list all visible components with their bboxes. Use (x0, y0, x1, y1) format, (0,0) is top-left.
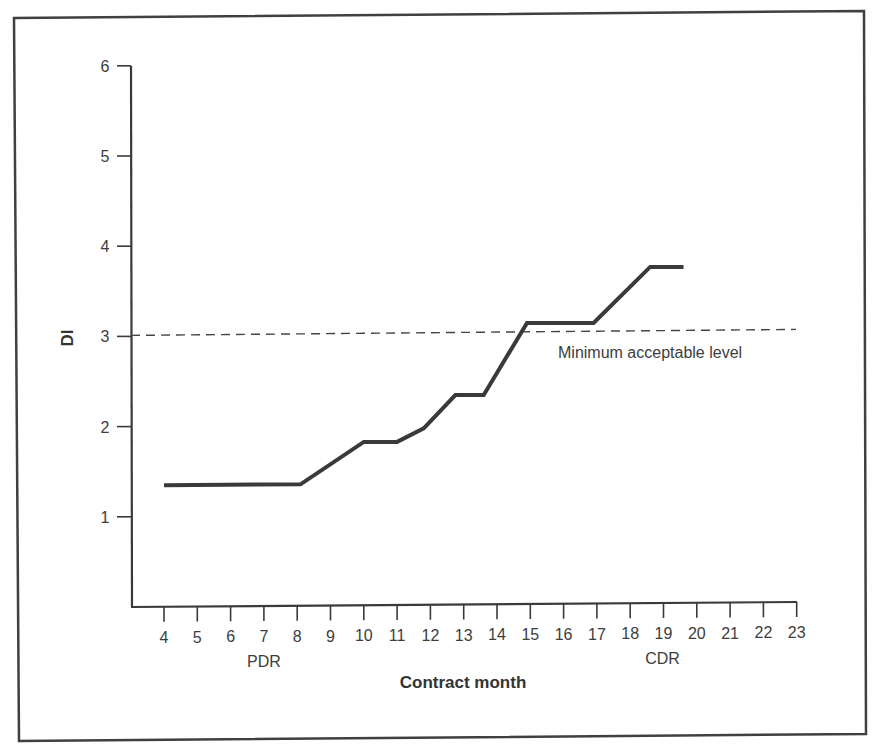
x-tick-label: 8 (293, 628, 302, 645)
x-axis-title: Contract month (400, 673, 527, 692)
x-tick-label: 19 (655, 625, 673, 642)
x-tick-label: 15 (521, 626, 539, 643)
x-tick-label: 9 (326, 628, 335, 645)
x-axis-ticks: 4567891011121314151617181920212223 (160, 602, 806, 646)
y-tick-label: 6 (101, 58, 110, 75)
y-tick-label: 2 (101, 419, 110, 436)
x-tick-label: 14 (488, 626, 506, 643)
x-tick-label: 11 (389, 627, 406, 644)
y-axis-ticks: 123456 (101, 58, 131, 526)
di-series-line (164, 267, 684, 485)
minimum-acceptable-level-line (131, 329, 796, 335)
x-tick-label: 17 (588, 626, 606, 643)
x-tick-label: 4 (160, 629, 169, 646)
x-tick-label: 20 (688, 625, 706, 642)
y-axis-title: DI (58, 330, 77, 347)
x-tick-label: 7 (259, 628, 268, 645)
y-tick-label: 5 (101, 148, 110, 165)
x-tick-label: 22 (755, 624, 773, 641)
x-tick-label: 6 (226, 628, 235, 645)
cdr-milestone-label: CDR (645, 650, 680, 667)
y-tick-label: 4 (101, 238, 110, 255)
x-tick-label: 10 (355, 627, 373, 644)
y-axis (131, 66, 132, 607)
x-tick-label: 18 (621, 625, 639, 642)
x-tick-label: 23 (788, 624, 806, 641)
y-tick-label: 3 (101, 328, 110, 345)
x-tick-label: 16 (555, 626, 573, 643)
x-tick-label: 21 (721, 625, 739, 642)
x-tick-label: 12 (422, 627, 440, 644)
x-tick-label: 5 (193, 629, 202, 646)
x-tick-label: 13 (455, 627, 473, 644)
minimum-acceptable-level-label: Minimum acceptable level (558, 344, 742, 361)
chart: 123456 456789101112131415161718192021222… (0, 0, 880, 754)
pdr-milestone-label: PDR (247, 653, 281, 670)
y-tick-label: 1 (101, 509, 110, 526)
